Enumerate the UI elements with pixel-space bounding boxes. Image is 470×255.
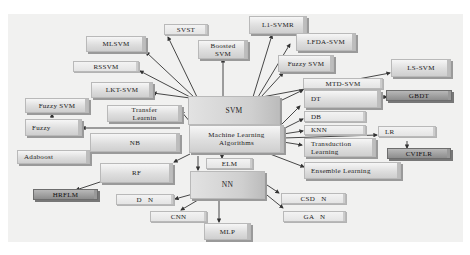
- node-ensemble-learning: Ensemble Learning: [304, 162, 401, 179]
- node-mtd-svm: MTD-SVM: [303, 78, 383, 89]
- node-hrflm: HRFLM: [33, 189, 98, 200]
- node-fuzzy-svm-right: Fuzzy SVM: [278, 55, 334, 72]
- node-dnn: D N: [116, 194, 174, 205]
- node-gbdt: GBDT: [386, 90, 452, 101]
- node-transduction-learning: Transduction Learning: [304, 138, 376, 157]
- node-adaboost: Adaboost: [17, 150, 90, 164]
- node-lr: LR: [378, 126, 436, 137]
- node-nn: NN: [190, 171, 265, 199]
- node-dt: DT: [304, 90, 381, 108]
- node-db: DB: [304, 111, 366, 122]
- node-root-ml-algorithms: Machine Learning Algorithms: [189, 125, 284, 153]
- node-fuzzy: Fuzzy: [25, 119, 82, 136]
- node-svst: SVST: [164, 24, 208, 35]
- node-rssvm: RSSVM: [73, 61, 139, 72]
- node-gann: GA N: [283, 211, 346, 222]
- node-l1-svmr: L1-SVMR: [249, 16, 307, 34]
- node-mlsvm: MLSVM: [86, 36, 146, 52]
- node-nb: NB: [90, 133, 180, 152]
- node-cviflr: CVIFLR: [387, 148, 451, 159]
- node-csdnn: CSD N: [281, 193, 346, 204]
- node-cnn: CNN: [150, 211, 207, 222]
- node-rf: RF: [100, 163, 173, 183]
- node-svm: SVM: [188, 96, 280, 125]
- node-mlp: MLP: [204, 223, 251, 240]
- node-elm: ELM: [206, 158, 253, 169]
- node-fuzzy-svm-left: Fuzzy SVM: [25, 98, 89, 113]
- node-lfda-svm: LFDA-SVM: [296, 33, 356, 51]
- node-knn: KNN: [304, 125, 366, 135]
- node-transfer-learning: Transfer Learnin: [107, 105, 182, 122]
- node-lkt-svm: LKT-SVM: [91, 82, 153, 98]
- node-ls-svm: LS-SVM: [391, 59, 451, 77]
- node-boosted-svm: Boosted SVM: [198, 40, 248, 59]
